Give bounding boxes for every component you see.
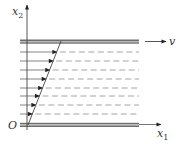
x1-axis-label: x1: [157, 127, 168, 142]
plate-velocity-label: v: [169, 35, 176, 48]
flow-layers: [20, 52, 139, 114]
couette-flow-diagram: x2 O x1 v: [0, 0, 186, 150]
origin-label: O: [8, 119, 17, 132]
top-plate: [20, 40, 139, 44]
bottom-plate: [20, 123, 139, 127]
x2-axis-label: x2: [12, 5, 23, 20]
velocity-profile-line: [28, 41, 61, 125]
